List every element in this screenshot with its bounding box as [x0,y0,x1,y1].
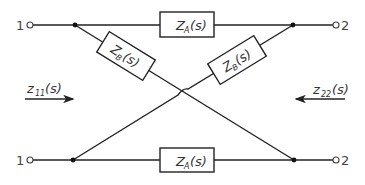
z22-main: z [312,82,321,97]
input-impedance-z11: z 11 (s) [25,81,73,99]
impedance-box-bottom-za: Z A (s) [160,148,214,172]
node-top-left [73,23,78,28]
z11-arg: (s) [45,81,62,96]
impedance-box-top-za: Z A (s) [160,12,214,37]
node-top-right [291,23,296,28]
impedance-box-right-zb: Z B (s) [208,36,267,85]
top-za-arg: (s) [190,18,207,33]
output-impedance-z22: z 22 (s) [296,82,349,99]
terminal-bottom-right: 2 [333,153,349,168]
z11-sub: 11 [35,89,45,98]
terminal-top-right: 2 [333,18,349,33]
terminal-bottom-left: 1 [16,153,33,168]
z22-sub: 22 [321,90,331,99]
bottom-za-arg: (s) [190,154,207,169]
terminal-top-left: 1 [16,18,33,33]
bottom-za-sub: A [183,162,189,171]
z11-main: z [26,81,35,96]
node-bottom-right [292,158,297,163]
terminal-top-left-label: 1 [16,18,24,33]
lattice-network-diagram: Z A (s) Z A (s) Z B (s) Z B (s) 1 1 2 [0,0,365,185]
terminal-bottom-left-label: 1 [16,153,24,168]
terminal-top-right-label: 2 [341,18,349,33]
z22-arg: (s) [332,82,349,97]
terminal-bottom-right-label: 2 [341,153,349,168]
top-za-sub: A [183,26,189,35]
impedance-box-left-zb: Z B (s) [97,32,156,81]
node-bottom-left [71,158,76,163]
